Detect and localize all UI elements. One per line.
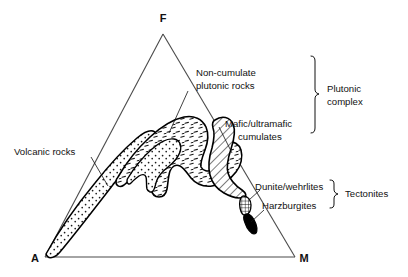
label-dunite-wehrlites: Dunite/wehrlites: [255, 181, 323, 192]
vertex-label-m: M: [299, 252, 308, 264]
bracket-tectonites: [325, 180, 338, 208]
label-plutonic-complex-line2: complex: [327, 96, 363, 107]
harzburgites-shape: [244, 214, 257, 234]
dunite-wehrlites-shape: [240, 196, 251, 215]
vertex-label-f: F: [160, 12, 167, 24]
label-non-cumulate-line2: plutonic rocks: [196, 80, 255, 91]
diagram-canvas: F A M: [0, 0, 408, 277]
label-volcanic-rocks: Volcanic rocks: [14, 146, 76, 157]
label-non-cumulate-line1: Non-cumulate: [196, 67, 256, 78]
vertex-label-a: A: [31, 252, 39, 264]
plutonic-complex-brace: [311, 56, 319, 133]
afm-ternary-diagram: F A M: [0, 0, 408, 277]
harzburgites-field: [244, 214, 257, 234]
dunite-wehrlites-field: [240, 196, 251, 215]
label-mafic-line2: cumulates: [238, 131, 282, 142]
leader-harzburgites: [251, 210, 264, 222]
label-mafic-line1: Mafic/ultramafic: [225, 118, 292, 129]
tectonites-brace: [330, 180, 338, 208]
label-harzburgites: Harzburgites: [262, 200, 317, 211]
label-plutonic-complex-line1: Plutonic: [327, 83, 361, 94]
bracket-plutonic-complex: [311, 56, 319, 133]
label-tectonites: Tectonites: [345, 188, 388, 199]
